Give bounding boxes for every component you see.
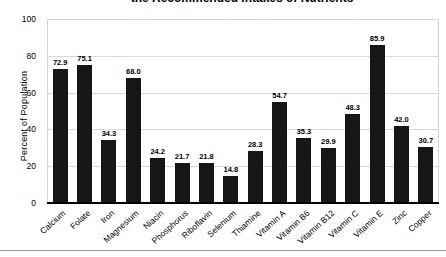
bar-value-label: 75.1 — [77, 54, 92, 63]
xtick-copper: Copper — [406, 208, 433, 234]
x-axis-line — [47, 202, 439, 204]
xtick-calcium: Calcium — [38, 208, 68, 236]
bar-value-label: 48.3 — [345, 103, 360, 112]
gridline-100 — [48, 19, 438, 20]
bar-folate — [77, 65, 92, 203]
plot-area: 72.975.134.368.024.221.721.814.828.354.7… — [47, 19, 439, 203]
x-axis-tick-labels: CalciumFolateIronMagnesiumNiacinPhosphor… — [47, 206, 437, 252]
bar-value-label: 28.3 — [248, 140, 263, 149]
bar-vitamin-c — [345, 114, 360, 203]
xtick-iron: Iron — [99, 208, 117, 225]
chart-title: the Recommended Intakes of Nutrients — [47, 0, 437, 5]
bar-value-label: 29.9 — [321, 137, 336, 146]
ytick-20: 20 — [27, 161, 36, 171]
bar-selenium — [223, 176, 238, 203]
bar-vitamin-b6 — [296, 138, 311, 203]
bar-copper — [418, 147, 433, 203]
bar-value-label: 34.3 — [102, 129, 117, 138]
bar-value-label: 35.3 — [297, 127, 312, 136]
bar-calcium — [53, 69, 68, 203]
bar-value-label: 30.7 — [419, 136, 434, 145]
bar-phosphorus — [175, 163, 190, 203]
xtick-zinc: Zinc — [391, 208, 410, 226]
ytick-80: 80 — [27, 51, 36, 61]
bar-value-label: 42.0 — [394, 115, 409, 124]
y-axis-tick-labels: 020406080100 — [0, 19, 42, 203]
ytick-40: 40 — [27, 124, 36, 134]
bar-vitamin-e — [370, 45, 385, 203]
bar-vitamin-b12 — [321, 148, 336, 203]
bar-value-label: 85.9 — [370, 34, 385, 43]
bar-iron — [101, 140, 116, 203]
bottom-divider — [0, 250, 446, 251]
bar-zinc — [394, 126, 409, 203]
bar-value-label: 24.2 — [150, 147, 165, 156]
bar-vitamin-a — [272, 102, 287, 203]
bar-value-label: 21.7 — [175, 152, 190, 161]
bar-value-label: 54.7 — [272, 91, 287, 100]
bar-magnesium — [126, 78, 141, 203]
bar-value-label: 14.8 — [224, 165, 239, 174]
bar-niacin — [150, 158, 165, 203]
bar-chart: the Recommended Intakes of Nutrients Per… — [0, 0, 446, 257]
xtick-folate: Folate — [68, 208, 92, 231]
ytick-60: 60 — [27, 88, 36, 98]
bar-riboflavin — [199, 163, 214, 203]
ytick-100: 100 — [22, 14, 36, 24]
bar-value-label: 72.9 — [53, 58, 68, 67]
bar-value-label: 21.8 — [199, 152, 214, 161]
ytick-0: 0 — [31, 198, 36, 208]
bar-value-label: 68.0 — [126, 67, 141, 76]
chart-title-clip-region: the Recommended Intakes of Nutrients — [47, 0, 437, 6]
bar-thiamine — [248, 151, 263, 203]
